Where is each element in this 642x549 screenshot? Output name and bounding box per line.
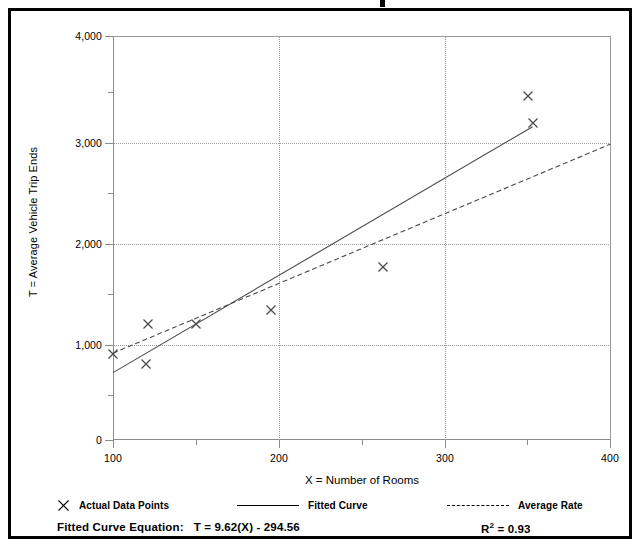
legend-label-average-rate: Average Rate (518, 500, 583, 511)
legend-item-average-rate: Average Rate (447, 495, 583, 515)
x-marker-icon (57, 499, 70, 512)
chart-frame: T = Average Vehicle Trip Ends 4,000 3,00… (8, 8, 632, 539)
legend-label-actual-data-points: Actual Data Points (79, 500, 169, 511)
chart-legend: Actual Data Points Fitted Curve Average … (11, 495, 629, 517)
legend-label-fitted-curve: Fitted Curve (308, 500, 368, 511)
fitted-curve-equation: Fitted Curve Equation: T = 9.62(X) - 294… (57, 521, 300, 533)
r2-number: = 0.93 (497, 523, 530, 535)
series-lines (11, 11, 629, 536)
r-squared-value: R2 = 0.93 (481, 521, 531, 535)
chart-canvas: T = Average Vehicle Trip Ends 4,000 3,00… (11, 11, 629, 536)
r2-exponent: 2 (489, 521, 494, 530)
legend-item-actual-data-points: Actual Data Points (57, 495, 169, 515)
chart-footer: Fitted Curve Equation: T = 9.62(X) - 294… (11, 521, 629, 543)
equation-value: T = 9.62(X) - 294.56 (194, 521, 300, 533)
series-line-fitted-curve (113, 127, 533, 373)
x-axis-title: X = Number of Rooms (113, 474, 611, 486)
legend-item-fitted-curve: Fitted Curve (237, 495, 368, 515)
page-top-mark (380, 0, 385, 7)
series-line-average-rate (113, 144, 611, 353)
equation-label: Fitted Curve Equation: (57, 521, 184, 533)
dashed-line-icon (447, 505, 509, 506)
solid-line-icon (237, 505, 299, 506)
